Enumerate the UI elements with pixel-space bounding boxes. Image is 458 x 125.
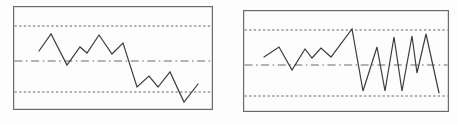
- control-chart-right: [244, 11, 449, 112]
- control-charts-figure: [0, 0, 458, 125]
- control-chart-left-border: [14, 7, 213, 110]
- scanned-figure-page: [0, 0, 458, 125]
- control-chart-left: [14, 7, 213, 110]
- control-chart-right-series: [264, 29, 439, 93]
